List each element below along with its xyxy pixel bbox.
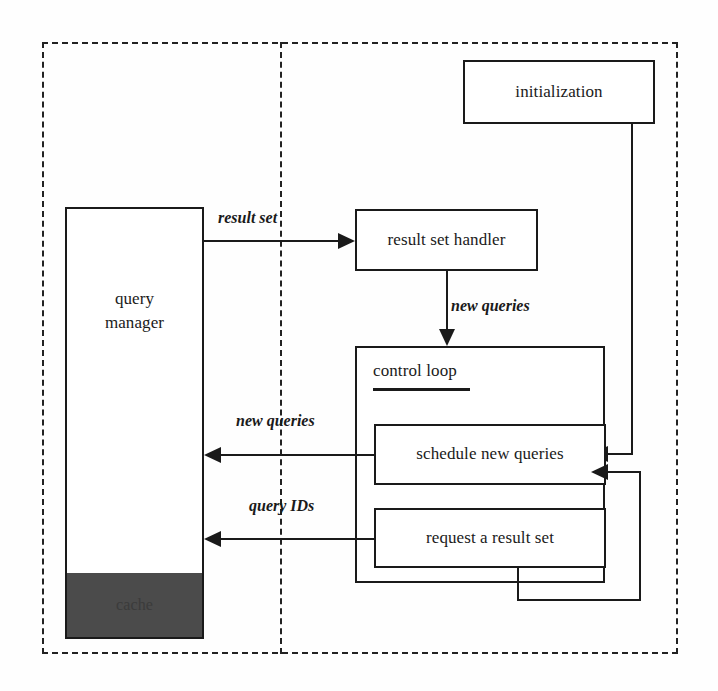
edge-new-queries-down-line — [446, 271, 448, 329]
edge-new-queries-left-arrowhead-icon — [204, 447, 221, 463]
control-loop-underline — [373, 388, 470, 391]
node-request-a-result-set-label: request a result set — [426, 528, 554, 548]
node-initialization[interactable]: initialization — [463, 60, 655, 124]
edge-label-new-queries-down: new queries — [451, 297, 530, 315]
edge-feedback-arrowhead-icon — [591, 464, 608, 480]
edge-feedback-bottom-horizontal — [517, 599, 641, 601]
edge-feedback-right-vertical — [639, 471, 641, 601]
node-control-loop-label: control loop — [373, 361, 457, 381]
node-query-manager-label-line1: query — [115, 289, 154, 308]
edge-label-result-set: result set — [218, 209, 277, 227]
edge-initialization-vertical — [631, 124, 633, 454]
node-result-set-handler-label: result set handler — [388, 230, 506, 250]
edge-feedback-stub-vertical — [517, 568, 519, 600]
node-cache-label: cache — [116, 596, 153, 614]
edge-result-set-line — [204, 240, 338, 242]
edge-feedback-into-schedule-horizontal — [608, 471, 641, 473]
edge-query-ids-arrowhead-icon — [204, 531, 221, 547]
edge-query-ids-line — [221, 538, 376, 540]
edge-label-new-queries-left: new queries — [236, 412, 315, 430]
client-server-divider-dashed — [280, 42, 282, 654]
node-request-a-result-set[interactable]: request a result set — [374, 508, 606, 568]
diagram-canvas: initialization query manager cache resul… — [0, 0, 718, 691]
node-query-manager-label-line2: manager — [105, 313, 164, 332]
edge-new-queries-left-line — [221, 454, 376, 456]
edge-initialization-horizontal — [608, 453, 633, 455]
node-schedule-new-queries[interactable]: schedule new queries — [374, 424, 606, 485]
node-result-set-handler[interactable]: result set handler — [355, 209, 538, 271]
edge-new-queries-down-arrowhead-icon — [439, 329, 455, 346]
node-initialization-label: initialization — [515, 82, 602, 102]
edge-label-query-ids: query IDs — [249, 497, 314, 515]
node-cache[interactable]: cache — [67, 573, 202, 637]
node-schedule-new-queries-label: schedule new queries — [416, 444, 563, 464]
edge-result-set-arrowhead-icon — [338, 233, 355, 249]
node-query-manager-label: query manager — [105, 287, 164, 335]
